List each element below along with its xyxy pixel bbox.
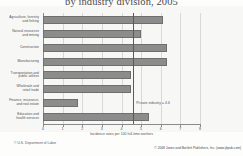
bar-row — [43, 16, 200, 24]
bar-row — [43, 71, 200, 79]
bar-row — [43, 58, 200, 66]
bar — [43, 58, 167, 66]
y-axis-label: Construction — [0, 46, 39, 50]
y-axis-label: Finance, insurance, and real estate — [0, 99, 39, 107]
bar — [43, 16, 163, 24]
x-axis-tick-label: 2 — [81, 127, 83, 131]
bar — [43, 99, 78, 107]
bar-row — [43, 30, 200, 38]
copyright-note: © 2008 Jones and Bartlett Publishers, In… — [154, 146, 241, 150]
plot-area — [43, 13, 200, 124]
x-axis-tick-label: 8 — [199, 127, 201, 131]
chart-page: by industry division, 2005 Agriculture, … — [0, 0, 243, 156]
gridline — [200, 13, 201, 124]
chart-title: by industry division, 2005 — [0, 0, 243, 7]
x-axis-tick-label: 4 — [120, 127, 122, 131]
bar — [43, 44, 167, 52]
bar-row — [43, 85, 200, 93]
bar — [43, 30, 141, 38]
y-axis-label: Natural resources and mining — [0, 30, 39, 38]
x-axis-tick-label: 5 — [140, 127, 142, 131]
source-note: © U.S. Department of Labor — [14, 141, 56, 145]
bar-row — [43, 99, 200, 107]
y-axis-label: Education and health services — [0, 113, 39, 121]
bar-row — [43, 113, 200, 121]
x-axis-tick-label: 3 — [101, 127, 103, 131]
private-industry-reference-line — [133, 13, 134, 124]
y-axis-label: Manufacturing — [0, 60, 39, 64]
private-industry-reference-label: Private industry = 4.6 — [136, 101, 170, 105]
y-axis-label: Wholesale and retail trade — [0, 85, 39, 93]
y-axis-label: Transportation and public utilities — [0, 72, 39, 80]
x-axis-tick-label: 6 — [160, 127, 162, 131]
bar — [43, 71, 131, 79]
y-axis-label: Agriculture, forestry and fishing — [0, 16, 39, 24]
x-axis-tick-label: 1 — [62, 127, 64, 131]
y-axis-category-labels: Agriculture, forestry and fishingNatural… — [0, 13, 41, 124]
x-axis-title: Incidence rates per 100 full-time worker… — [43, 132, 200, 136]
bar-row — [43, 44, 200, 52]
x-axis-tick-label: 0 — [42, 127, 44, 131]
bar — [43, 85, 131, 93]
x-axis-tick-label: 7 — [179, 127, 181, 131]
